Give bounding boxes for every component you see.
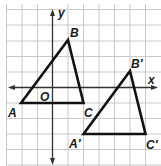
y-axis-label: y bbox=[57, 6, 66, 20]
vertex-label-c: C bbox=[84, 106, 93, 120]
x-axis-label: x bbox=[147, 73, 156, 87]
vertex-label-c-prime: C′ bbox=[146, 138, 159, 152]
origin-label: O bbox=[40, 90, 50, 104]
y-axis-down-arrow-icon bbox=[50, 158, 55, 165]
x-axis-left-arrow-icon bbox=[8, 85, 15, 90]
vertex-label-b: B bbox=[70, 26, 79, 40]
coordinate-plane: y x O B A C B′ A′ C′ bbox=[0, 0, 161, 166]
vertex-label-a: A bbox=[7, 106, 17, 120]
vertex-label-b-prime: B′ bbox=[131, 57, 144, 71]
grid bbox=[6, 4, 161, 166]
y-axis-up-arrow-icon bbox=[50, 9, 55, 16]
vertex-label-a-prime: A′ bbox=[68, 137, 82, 151]
